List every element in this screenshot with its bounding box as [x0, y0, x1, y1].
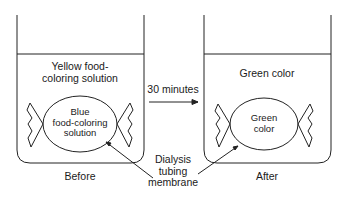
inner-solution-line-3: solution: [43, 128, 117, 139]
arrow-label: 30 minutes: [143, 84, 203, 96]
inner-solution-label-after: Green color: [234, 113, 294, 134]
outer-solution-line-2: coloring solution: [30, 73, 130, 85]
outer-solution-label-after: Green color: [217, 68, 317, 80]
bag-knot-left-before: [27, 103, 43, 147]
inner-solution-line-1: Blue: [43, 107, 117, 118]
bag-knot-right-before: [117, 103, 133, 147]
caption-before: Before: [40, 171, 120, 183]
outer-solution-label-before: Yellow food- coloring solution: [30, 61, 130, 84]
bag-knot-right-after: [298, 104, 313, 147]
outer-solution-line-1: Yellow food-: [30, 61, 130, 73]
membrane-line-1: Dialysis: [143, 154, 203, 166]
beaker-after: [204, 15, 331, 163]
membrane-line-3: membrane: [143, 177, 203, 189]
bag-knot-left-after: [215, 104, 230, 147]
inner-after-line-2: color: [234, 124, 294, 135]
inner-solution-label-before: Blue food-coloring solution: [43, 107, 117, 139]
caption-after: After: [227, 171, 307, 183]
beaker-before: [17, 15, 144, 163]
membrane-label: Dialysis tubing membrane: [143, 154, 203, 189]
inner-after-line-1: Green: [234, 113, 294, 124]
